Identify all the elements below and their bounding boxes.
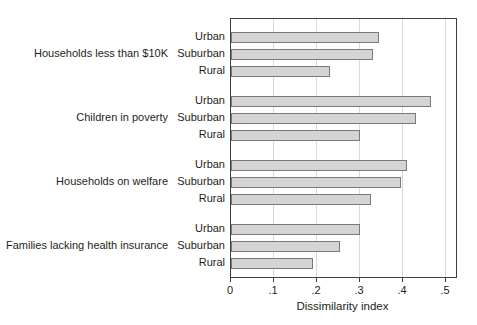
group-label: Families lacking health insurance xyxy=(0,239,168,252)
x-tick-label-.5: .5 xyxy=(440,284,449,296)
bar-row-label: Rural xyxy=(0,256,225,269)
x-tick-mark-.1 xyxy=(273,278,274,282)
x-axis-title: Dissimilarity index xyxy=(296,300,388,312)
x-tick-mark-.3 xyxy=(359,278,360,282)
bar-1-urban xyxy=(231,96,431,107)
gridline-.4 xyxy=(402,19,403,277)
bar-row-label: Urban xyxy=(0,94,225,107)
group-label: Households on welfare xyxy=(0,175,168,188)
x-tick-label-.1: .1 xyxy=(268,284,277,296)
group-label: Children in poverty xyxy=(0,111,168,124)
x-tick-label-.4: .4 xyxy=(397,284,406,296)
x-tick-label-0: 0 xyxy=(227,284,233,296)
bar-row-label: Urban xyxy=(0,222,225,235)
x-tick-label-.2: .2 xyxy=(311,284,320,296)
bar-0-rural xyxy=(231,66,330,77)
group-label: Households less than $10K xyxy=(0,47,168,60)
x-tick-mark-0 xyxy=(230,278,231,282)
bar-2-urban xyxy=(231,160,407,171)
x-tick-label-.3: .3 xyxy=(354,284,363,296)
dissimilarity-bar-chart: UrbanSuburbanRuralUrbanSuburbanRuralUrba… xyxy=(0,0,477,325)
bar-row-label: Rural xyxy=(0,128,225,141)
plot-area xyxy=(230,18,457,278)
x-tick-mark-.4 xyxy=(402,278,403,282)
bar-0-suburban xyxy=(231,49,373,60)
bar-3-rural xyxy=(231,258,313,269)
x-tick-mark-.2 xyxy=(316,278,317,282)
bar-2-rural xyxy=(231,194,371,205)
bar-0-urban xyxy=(231,32,379,43)
bar-1-suburban xyxy=(231,113,416,124)
bar-row-label: Rural xyxy=(0,192,225,205)
bar-3-suburban xyxy=(231,241,340,252)
bar-row-label: Urban xyxy=(0,30,225,43)
x-tick-mark-.5 xyxy=(445,278,446,282)
gridline-.5 xyxy=(445,19,446,277)
bar-1-rural xyxy=(231,130,360,141)
bar-3-urban xyxy=(231,224,360,235)
bar-2-suburban xyxy=(231,177,401,188)
bar-row-label: Urban xyxy=(0,158,225,171)
bar-row-label: Rural xyxy=(0,64,225,77)
